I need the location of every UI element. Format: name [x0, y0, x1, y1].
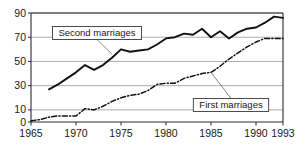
y-tick-label: 70 [14, 31, 26, 43]
y-tick-label: 10 [14, 103, 26, 115]
y-tick-label: 50 [14, 55, 26, 67]
x-axis-tick-labels: 1965197019751980198519901993 [19, 127, 295, 139]
y-tick-label: 0 [20, 116, 26, 128]
callout-label-second: Second marriages [58, 27, 135, 38]
callout-second-marriages: Second marriages [52, 27, 141, 55]
y-tick-label: 30 [14, 79, 26, 91]
leader-line-second [97, 40, 112, 55]
y-tick-label: 90 [14, 7, 26, 19]
x-tick-label: 1985 [199, 127, 223, 139]
callout-label-first: First marriages [199, 99, 263, 110]
x-tick-label: 1975 [109, 127, 133, 139]
y-axis-tick-labels: 01030507090 [14, 7, 26, 128]
line-chart: 01030507090 1965197019751980198519901993… [0, 0, 305, 155]
x-tick-label: 1990 [244, 127, 268, 139]
callout-first-marriages: First marriages [193, 72, 268, 111]
x-tick-label: 1970 [64, 127, 88, 139]
x-tick-label: 1980 [154, 127, 178, 139]
x-tick-label: 1993 [271, 127, 295, 139]
chart-container: 01030507090 1965197019751980198519901993… [0, 0, 305, 155]
x-tick-label: 1965 [19, 127, 43, 139]
